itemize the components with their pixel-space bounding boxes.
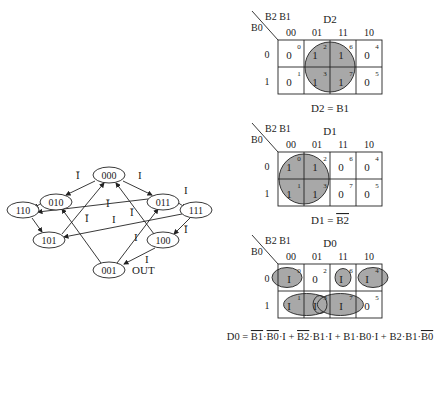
svg-text:0: 0: [265, 161, 270, 172]
kmap-cell: I: [287, 300, 291, 312]
svg-text:01: 01: [312, 27, 322, 38]
kmap-cell: 1: [312, 188, 318, 200]
state-110: 110: [7, 202, 39, 218]
svg-text:100: 100: [156, 235, 171, 246]
svg-text:4: 4: [375, 43, 379, 51]
svg-text:4: 4: [375, 267, 379, 275]
svg-text:10: 10: [364, 27, 374, 38]
svg-text:6: 6: [349, 267, 353, 275]
svg-text:3: 3: [323, 182, 327, 190]
kmap-cell: I: [287, 273, 291, 285]
svg-text:0: 0: [297, 267, 301, 275]
kmap-cell: 1: [338, 76, 344, 88]
equation: D0 = B1·B0·I + B2·B1·I + B1·B0·I + B2·B1…: [227, 331, 433, 342]
kmap-cell: 1: [286, 161, 292, 173]
svg-text:B0: B0: [251, 246, 263, 257]
svg-text:111: 111: [189, 205, 203, 216]
svg-text:0: 0: [297, 43, 301, 51]
svg-text:0: 0: [297, 155, 301, 163]
svg-text:00: 00: [286, 251, 296, 262]
kmap-cell: 0: [338, 188, 344, 200]
label-ibar-3: Ī: [130, 206, 134, 218]
svg-text:7: 7: [349, 182, 353, 190]
states: 000010011110111101100001: [7, 167, 212, 278]
kmap-cell: I: [365, 273, 369, 285]
kmap-cell: 1: [338, 49, 344, 61]
svg-text:1: 1: [265, 188, 270, 199]
svg-text:1: 1: [265, 300, 270, 311]
kmap-cell: 0: [312, 273, 318, 285]
label-out: OUT: [132, 264, 155, 276]
svg-text:3: 3: [323, 70, 327, 78]
kmap-cell: 0: [286, 76, 292, 88]
label-ibar-1: Ī: [76, 169, 80, 181]
state-011: 011: [147, 194, 179, 210]
state-diagram: [32, 181, 190, 264]
kmap-cell: I: [339, 300, 343, 312]
kmap-cell: 1: [312, 49, 318, 61]
kmap-cell: 1: [286, 188, 292, 200]
svg-text:00: 00: [286, 139, 296, 150]
label-ibar-5: Ī: [184, 223, 188, 235]
svg-text:B2 B1: B2 B1: [265, 11, 291, 22]
label-i-3: I: [112, 213, 116, 225]
state-101: 101: [33, 232, 65, 248]
svg-text:10: 10: [364, 139, 374, 150]
kmap-cell: 0: [364, 188, 370, 200]
svg-text:11: 11: [338, 27, 348, 38]
svg-text:5: 5: [375, 294, 379, 302]
svg-text:2: 2: [323, 43, 327, 51]
svg-text:3: 3: [323, 294, 327, 302]
svg-text:011: 011: [156, 197, 171, 208]
svg-text:7: 7: [349, 70, 353, 78]
state-100: 100: [147, 232, 179, 248]
svg-text:B2 B1: B2 B1: [265, 123, 291, 134]
equation: D2 = B1: [311, 102, 349, 114]
svg-text:5: 5: [375, 70, 379, 78]
svg-text:2: 2: [323, 267, 327, 275]
svg-text:0: 0: [265, 273, 270, 284]
svg-text:0: 0: [265, 49, 270, 60]
state-010: 010: [40, 194, 72, 210]
svg-text:6: 6: [349, 155, 353, 163]
state-000: 000: [93, 167, 125, 183]
svg-text:B2 B1: B2 B1: [265, 235, 291, 246]
svg-text:1: 1: [297, 182, 301, 190]
kmap-cell: 0: [286, 49, 292, 61]
svg-text:10: 10: [364, 251, 374, 262]
svg-text:B0: B0: [251, 22, 263, 33]
svg-text:11: 11: [338, 139, 348, 150]
label-ibar-4: Ī: [85, 212, 89, 224]
svg-text:4: 4: [375, 155, 379, 163]
svg-text:6: 6: [349, 43, 353, 51]
kmap-cell: 0: [364, 161, 370, 173]
kmap-title: D2: [323, 13, 336, 25]
svg-text:5: 5: [375, 182, 379, 190]
svg-text:1: 1: [297, 70, 301, 78]
kmap-cell: I: [339, 273, 343, 285]
kmap-cell: 1: [312, 76, 318, 88]
state-001: 001: [93, 262, 125, 278]
kmap-cell: 0: [364, 76, 370, 88]
label-ibar-2: Ī: [106, 197, 110, 209]
label-i-4: I: [134, 231, 138, 243]
svg-text:11: 11: [338, 251, 348, 262]
svg-text:00: 00: [286, 27, 296, 38]
svg-text:01: 01: [312, 251, 322, 262]
svg-text:110: 110: [16, 205, 31, 216]
kmap-cell: 0: [364, 300, 370, 312]
kmap-cell: I: [313, 300, 317, 312]
svg-text:101: 101: [42, 235, 57, 246]
svg-text:2: 2: [323, 155, 327, 163]
svg-text:B0: B0: [251, 134, 263, 145]
kmap-d2: D2B2 B1B000011110010012160401131705D2 = …: [251, 11, 382, 114]
svg-text:1: 1: [297, 294, 301, 302]
label-i-2: I: [184, 184, 188, 196]
kmap-title: D0: [323, 237, 337, 249]
svg-text:1: 1: [265, 76, 270, 87]
state-111: 111: [180, 202, 212, 218]
state-diagram-and-kmaps: 000010011110111101100001 Ī I Ī Ī I Ī I I…: [0, 0, 436, 397]
svg-text:01: 01: [312, 139, 322, 150]
kmap-cell: 0: [364, 49, 370, 61]
kmap-cell: 1: [312, 161, 318, 173]
